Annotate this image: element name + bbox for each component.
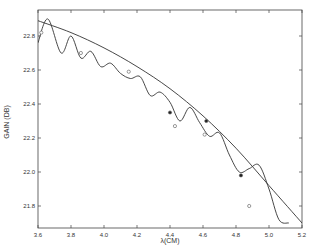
data-markers: [40, 31, 251, 208]
x-tick-label: 4.8: [232, 232, 241, 238]
y-tick-label: 22.8: [23, 33, 35, 39]
open-data-point: [79, 51, 82, 54]
curves: [38, 19, 302, 223]
y-tick-label: 22.0: [23, 169, 35, 175]
y-axis-label: GAIN (DB): [3, 105, 11, 138]
x-tick-label: 4.0: [100, 232, 109, 238]
plot-frame: [38, 10, 302, 228]
x-tick-label: 4.6: [199, 232, 208, 238]
x-tick-label: 3.8: [67, 232, 76, 238]
open-data-point: [40, 31, 43, 34]
x-tick-label: 5.2: [298, 232, 307, 238]
x-tick-label: 5.0: [265, 232, 274, 238]
filled-data-point: [205, 119, 208, 122]
y-tick-label: 21.8: [23, 203, 35, 209]
oscillating-theory-curve: [38, 19, 289, 223]
open-data-point: [173, 125, 176, 128]
open-data-point: [127, 70, 130, 73]
y-tick-label: 22.4: [23, 101, 35, 107]
plot-border: [38, 10, 302, 228]
x-tick-label: 4.2: [133, 232, 142, 238]
y-tick-label: 22.6: [23, 67, 35, 73]
axis-ticks: 3.63.84.04.24.44.64.85.05.221.822.022.22…: [23, 10, 307, 238]
open-data-point: [248, 204, 251, 207]
filled-data-point: [168, 111, 171, 114]
gain-vs-wavelength-chart: 3.63.84.04.24.44.64.85.05.221.822.022.22…: [0, 0, 317, 247]
filled-data-point: [239, 174, 242, 177]
x-axis-label: λ(CM): [160, 237, 179, 245]
y-tick-label: 22.2: [23, 135, 35, 141]
x-tick-label: 3.6: [34, 232, 43, 238]
open-data-point: [203, 133, 206, 136]
